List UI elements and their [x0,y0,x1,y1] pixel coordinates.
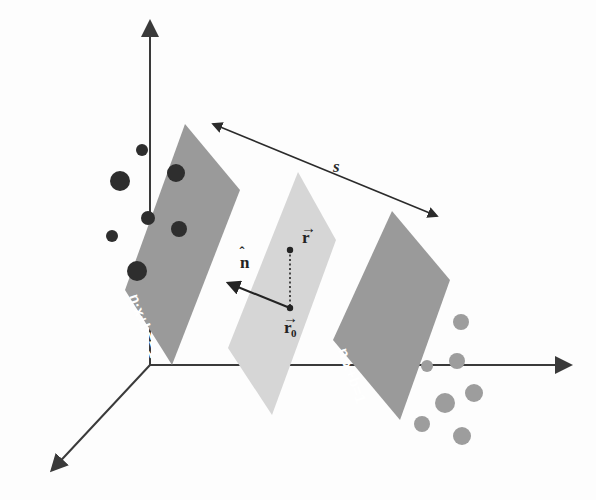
data-point [106,230,118,242]
data-point [110,171,130,191]
margin-distance-arrow [213,124,437,216]
plane-negative: n·x+b=−1 [125,124,240,365]
data-point [167,164,185,182]
data-point [453,427,471,445]
data-point [453,314,469,330]
point-r-marker [287,247,293,253]
figure-canvas: n·x+b=−1 n·x+b=1 s [0,0,596,500]
normal-vector-label-group: ˆ n [240,244,251,272]
plane-decision [228,172,336,415]
depth-axis [52,365,150,470]
data-point [449,353,465,369]
margin-distance-label: s [332,157,340,176]
data-point [421,360,433,372]
r0-vector-subscript: 0 [291,327,297,339]
normal-vector-label: n [240,253,250,272]
plane-decision-surface [228,172,336,415]
svm-margin-figure: n·x+b=−1 n·x+b=1 s [0,0,596,500]
data-point [127,261,147,281]
data-point [136,144,148,156]
data-point [435,393,455,413]
negative-class-points [110,144,148,191]
data-point [465,384,483,402]
plane-positive: n·x+b=1 [333,211,450,420]
margin-distance-group: s [213,124,437,216]
data-point [141,211,155,225]
data-point [171,221,187,237]
r-vector-label: r [302,228,310,247]
r0-vector-label-group: → r 0 [283,310,298,339]
data-point [414,416,430,432]
